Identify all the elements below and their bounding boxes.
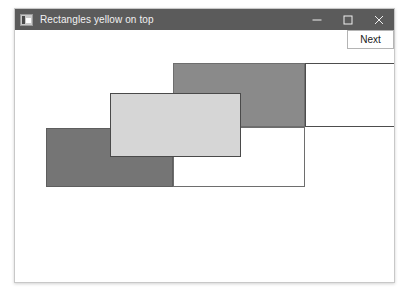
app-window: Rectangles yellow on top Next: [14, 8, 395, 283]
rectangles-canvas: [15, 30, 394, 282]
next-button[interactable]: Next: [347, 30, 394, 49]
close-button[interactable]: [363, 9, 394, 30]
minimize-button[interactable]: [301, 9, 332, 30]
minimize-icon: [311, 14, 322, 25]
window-title: Rectangles yellow on top: [40, 9, 301, 30]
title-bar[interactable]: Rectangles yellow on top: [15, 9, 394, 30]
maximize-icon: [342, 14, 353, 25]
close-icon: [373, 14, 384, 25]
rect-light-center: [110, 93, 241, 157]
rect-white-right: [305, 63, 394, 127]
client-area: Next: [15, 30, 394, 282]
application-icon: [20, 14, 33, 26]
maximize-button[interactable]: [332, 9, 363, 30]
